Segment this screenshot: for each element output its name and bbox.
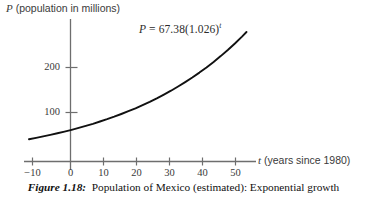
figure-caption-body: Population of Mexico (estimated): Expone… [92,181,340,193]
y-axis-label-text: (population in millions) [13,2,120,14]
y-tick-label-200: 200 [26,62,60,73]
x-axis-label-text: (years since 1980) [261,154,350,166]
x-tick-label-50: 50 [219,168,253,179]
y-tick-label-100: 100 [26,107,60,118]
exponential-curve [29,32,247,139]
curve-equation-annotation: P = 67.38(1.026)t [139,24,221,36]
x-tick-label-30: 30 [153,168,187,179]
plot-area: P (population in millions) t (years sinc… [0,0,367,178]
y-axis-ticks [66,68,78,113]
x-tick-label-10: 10 [87,168,121,179]
figure-container: P (population in millions) t (years sinc… [0,0,367,204]
equation-equals: = [146,23,159,35]
equation-exponent: t [219,21,221,30]
equation-body: 67.38(1.026) [159,23,220,35]
x-axis-label: t (years since 1980) [258,155,350,166]
x-tick-label-40: 40 [186,168,220,179]
x-tick-label-20: 20 [120,168,154,179]
figure-caption: Figure 1.18: Population of Mexico (estim… [0,181,367,194]
x-tick-label-0: 0 [54,168,88,179]
y-axis-label: P (population in millions) [6,3,120,14]
figure-number-label: Figure 1.18: [28,181,86,193]
y-axis-label-variable: P [6,2,13,14]
x-tick-label-neg10: −10 [16,168,50,179]
